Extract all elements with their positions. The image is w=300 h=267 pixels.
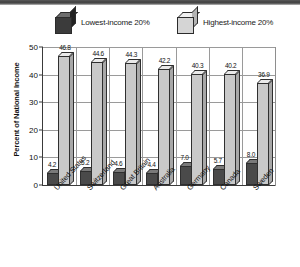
chart-legend: Lowest-income 20% Highest-income 20% [55,12,295,38]
page-header-strip [0,0,300,5]
bar-value-label-highest: 40.3 [192,62,203,69]
legend-label-highest-income: Highest-income 20% [203,18,273,27]
bar-value-label-highest: 44.3 [126,51,137,58]
bar-value-label-lowest: 7.0 [181,154,189,161]
cube-dark-icon [55,12,75,32]
bar-value-label-lowest: 4.2 [48,161,56,168]
legend-item-highest-income: Highest-income 20% [177,12,273,32]
bar-value-label-highest: 36.9 [258,71,269,78]
bar-value-label-highest: 44.6 [92,50,103,57]
legend-item-lowest-income: Lowest-income 20% [55,12,150,32]
bar-value-label-highest: 40.2 [225,62,236,69]
x-axis-labels: United StatesSwitzerlandGreat BritainAus… [42,186,274,256]
bar-value-label-highest: 42.2 [159,57,170,64]
bar-value-label-lowest: 8.0 [247,151,255,158]
y-axis-title: Percent of National Income [12,50,21,170]
bar-value-label-lowest: 5.7 [214,157,222,164]
chart-page: Lowest-income 20% Highest-income 20% Per… [0,0,300,267]
bar-highest-income [58,56,70,185]
bar-group: 36.98.0 [242,47,275,185]
cube-light-icon [177,12,197,32]
bar-value-label-highest: 46.8 [59,44,70,51]
legend-label-lowest-income: Lowest-income 20% [81,18,150,27]
bar-group: 40.25.7 [209,47,242,185]
